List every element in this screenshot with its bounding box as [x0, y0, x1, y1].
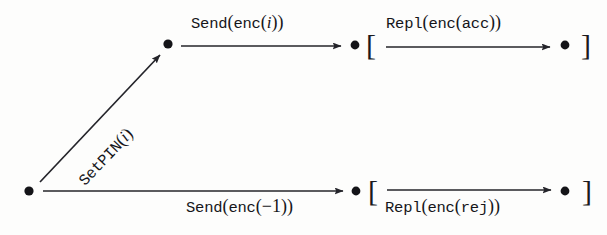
repl-enc-rej-label-mono2: enc — [427, 199, 454, 217]
diagram-canvas — [0, 0, 607, 235]
send-enc-minus1-label-minus: − — [262, 196, 272, 216]
send-enc-minus1-label-close-paren: ) — [287, 196, 293, 216]
send-enc-i-label-mono: Send — [191, 15, 227, 33]
send-enc-minus1-label-mono: Send — [186, 199, 222, 217]
diagram-root: [ ] [ ] SetPIN(i) Send(enc(i)) Repl(enc(… — [0, 0, 607, 235]
send-enc-i-label-close-paren: ) — [277, 12, 283, 32]
repl-enc-acc-edge-label: Repl(enc(acc)) — [386, 13, 501, 33]
accept-group-close-bracket: ] — [581, 30, 591, 60]
repl-enc-rej-edge-label: Repl(enc(rej)) — [385, 197, 500, 217]
repl-enc-acc-label-close-paren: ) — [495, 12, 501, 32]
repl-enc-rej-label-mono3: rej — [461, 199, 488, 217]
reject-group-close-bracket: ] — [582, 176, 592, 206]
send-enc-minus1-label-number: 1 — [272, 196, 281, 216]
send-enc-minus1-label-mono2: enc — [228, 199, 255, 217]
repl-enc-acc-label-mono2: enc — [428, 15, 455, 33]
repl-enc-acc-label-mono: Repl — [386, 15, 422, 33]
sent-reject-node[interactable] — [352, 187, 361, 196]
send-enc-i-label-mono2: enc — [233, 15, 260, 33]
send-enc-minus1-edge-label: Send(enc(−1)) — [186, 197, 293, 217]
reject-group-open-bracket: [ — [368, 176, 378, 206]
replied-accept-node[interactable] — [561, 41, 570, 50]
accept-group-open-bracket: [ — [366, 30, 376, 60]
replied-reject-node[interactable] — [561, 187, 570, 196]
repl-enc-rej-label-close-paren: ) — [494, 196, 500, 216]
pin-set-node[interactable] — [163, 39, 172, 48]
origin-node[interactable] — [24, 186, 33, 195]
repl-enc-rej-label-mono: Repl — [385, 199, 421, 217]
send-enc-i-edge-label: Send(enc(i)) — [191, 13, 283, 33]
sent-accept-node[interactable] — [351, 41, 360, 50]
repl-enc-acc-label-mono3: acc — [462, 15, 489, 33]
